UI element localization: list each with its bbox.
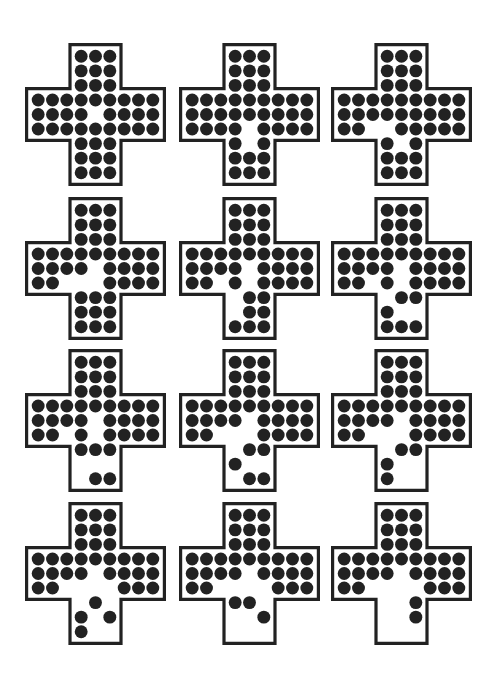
- peg: [32, 552, 45, 565]
- peg: [200, 247, 213, 260]
- peg: [243, 50, 256, 63]
- peg: [103, 247, 116, 260]
- peg: [409, 385, 422, 398]
- peg: [409, 596, 422, 609]
- peg: [243, 247, 256, 260]
- peg: [243, 472, 256, 485]
- peg: [60, 108, 73, 121]
- peg: [46, 552, 59, 565]
- peg: [409, 50, 422, 63]
- peg: [60, 93, 73, 106]
- peg: [409, 277, 422, 290]
- peg: [89, 152, 102, 165]
- peg: [32, 123, 45, 136]
- peg: [229, 108, 242, 121]
- peg: [438, 277, 451, 290]
- peg: [272, 414, 285, 427]
- peg: [229, 137, 242, 150]
- peg: [300, 277, 313, 290]
- peg: [75, 399, 88, 412]
- peg: [272, 399, 285, 412]
- peg: [381, 166, 394, 179]
- peg: [409, 523, 422, 536]
- peg: [200, 108, 213, 121]
- peg: [89, 204, 102, 217]
- peg: [381, 137, 394, 150]
- peg: [89, 538, 102, 551]
- peg: [60, 567, 73, 580]
- peg: [286, 399, 299, 412]
- peg: [352, 552, 365, 565]
- peg: [103, 277, 116, 290]
- peg: [424, 123, 437, 136]
- peg: [103, 291, 116, 304]
- peg: [409, 262, 422, 275]
- peg: [32, 262, 45, 275]
- peg: [103, 567, 116, 580]
- peg: [200, 582, 213, 595]
- peg: [243, 64, 256, 77]
- peg: [395, 233, 408, 246]
- peg: [243, 356, 256, 369]
- peg: [146, 414, 159, 427]
- peg: [89, 50, 102, 63]
- peg: [214, 552, 227, 565]
- board-11: [179, 502, 320, 645]
- peg: [381, 218, 394, 231]
- peg: [338, 93, 351, 106]
- peg: [103, 218, 116, 231]
- peg: [60, 247, 73, 260]
- peg: [452, 262, 465, 275]
- peg: [366, 414, 379, 427]
- peg: [409, 233, 422, 246]
- peg: [229, 414, 242, 427]
- peg: [257, 166, 270, 179]
- peg: [381, 108, 394, 121]
- peg: [338, 399, 351, 412]
- peg: [395, 64, 408, 77]
- peg: [395, 399, 408, 412]
- peg: [286, 414, 299, 427]
- peg: [338, 247, 351, 260]
- peg: [381, 50, 394, 63]
- peg: [200, 277, 213, 290]
- peg: [75, 204, 88, 217]
- peg: [395, 247, 408, 260]
- peg: [257, 247, 270, 260]
- peg: [132, 108, 145, 121]
- peg: [395, 152, 408, 165]
- peg: [103, 538, 116, 551]
- peg: [424, 262, 437, 275]
- peg: [409, 443, 422, 456]
- peg: [257, 93, 270, 106]
- peg: [395, 538, 408, 551]
- peg: [452, 414, 465, 427]
- peg: [103, 204, 116, 217]
- peg: [257, 538, 270, 551]
- peg: [395, 79, 408, 92]
- peg: [424, 277, 437, 290]
- peg: [118, 93, 131, 106]
- peg: [381, 509, 394, 522]
- peg: [243, 108, 256, 121]
- peg: [409, 611, 422, 624]
- peg: [103, 356, 116, 369]
- peg: [200, 414, 213, 427]
- peg: [60, 262, 73, 275]
- peg: [229, 458, 242, 471]
- peg: [118, 567, 131, 580]
- peg: [381, 233, 394, 246]
- peg: [338, 123, 351, 136]
- peg: [381, 523, 394, 536]
- peg: [118, 399, 131, 412]
- peg: [146, 277, 159, 290]
- peg: [352, 567, 365, 580]
- peg: [352, 123, 365, 136]
- peg: [395, 291, 408, 304]
- peg: [352, 247, 365, 260]
- peg: [409, 108, 422, 121]
- peg: [46, 414, 59, 427]
- peg: [32, 108, 45, 121]
- peg: [381, 370, 394, 383]
- peg: [395, 552, 408, 565]
